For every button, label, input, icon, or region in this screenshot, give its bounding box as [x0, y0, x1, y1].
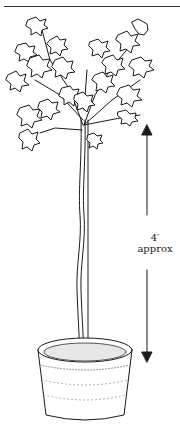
height-value: 4′	[130, 232, 180, 243]
pot	[38, 338, 132, 420]
trunk	[77, 120, 88, 368]
height-qualifier: approx	[130, 243, 180, 254]
tree-illustration	[0, 0, 180, 430]
height-label: 4′ approx	[130, 232, 180, 254]
leaves	[6, 17, 154, 151]
